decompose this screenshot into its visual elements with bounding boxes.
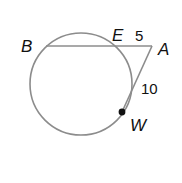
- label-point-e: E: [112, 26, 124, 45]
- label-point-b: B: [21, 37, 32, 56]
- label-point-a: A: [157, 40, 169, 59]
- circle: [30, 33, 132, 135]
- label-point-w: W: [130, 116, 148, 135]
- point-w-dot: [119, 109, 126, 116]
- measure-ea: 5: [135, 27, 143, 44]
- circle-diagram: B E A W 5 10: [0, 0, 182, 183]
- tangent-segment-aw: [122, 46, 152, 112]
- measure-aw: 10: [141, 80, 158, 97]
